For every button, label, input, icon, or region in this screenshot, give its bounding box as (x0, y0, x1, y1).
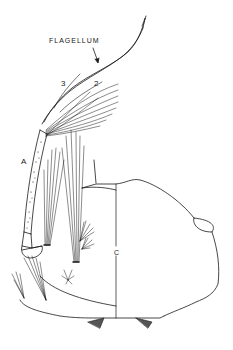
central-setae (44, 130, 84, 262)
head-capsule (20, 180, 219, 318)
part-c-label: C (114, 249, 119, 256)
segment-3-label: 3 (61, 80, 65, 88)
anatomy-drawing (0, 0, 233, 350)
flagellum-arrow (93, 48, 99, 63)
part-a-label: A (21, 158, 26, 166)
setae-fan (46, 84, 118, 136)
ventral-plates (88, 318, 152, 328)
segment-2-label: 2 (94, 80, 98, 88)
anatomy-figure: FLAGELLUM 3 2 A C (0, 0, 233, 350)
basal-segments (21, 232, 42, 258)
flagellum-shape (42, 16, 146, 124)
flagellum-label: FLAGELLUM (49, 37, 100, 44)
small-stalk (94, 160, 96, 183)
lower-left-setae (12, 256, 46, 300)
segment-a (24, 130, 47, 234)
